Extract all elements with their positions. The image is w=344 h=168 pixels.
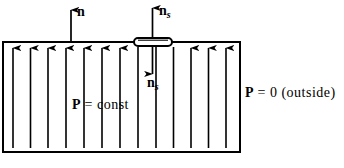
- label-ns-bottom-subscript: s: [155, 81, 159, 92]
- label-p-outside-rest: = 0 (outside): [254, 85, 336, 100]
- label-surface-normal-down: ns: [147, 76, 159, 92]
- label-p-const-rest: = const: [81, 97, 129, 112]
- figure-root: n ns ns P = const P = 0 (outside): [0, 0, 344, 168]
- label-surface-normal-up: ns: [159, 4, 171, 20]
- label-p-const: P = const: [72, 98, 129, 112]
- gaussian-pillbox: [134, 38, 172, 46]
- label-normal-vector-n: n: [77, 5, 85, 19]
- label-ns-top-subscript: s: [167, 9, 171, 20]
- label-p-outside-symbol: P: [245, 85, 254, 100]
- label-ns-top-base: n: [159, 3, 167, 18]
- diagram-canvas: [0, 0, 344, 168]
- label-p-outside: P = 0 (outside): [245, 86, 336, 100]
- label-p-const-symbol: P: [72, 97, 81, 112]
- label-ns-bottom-base: n: [147, 75, 155, 90]
- label-n-symbol: n: [77, 4, 85, 19]
